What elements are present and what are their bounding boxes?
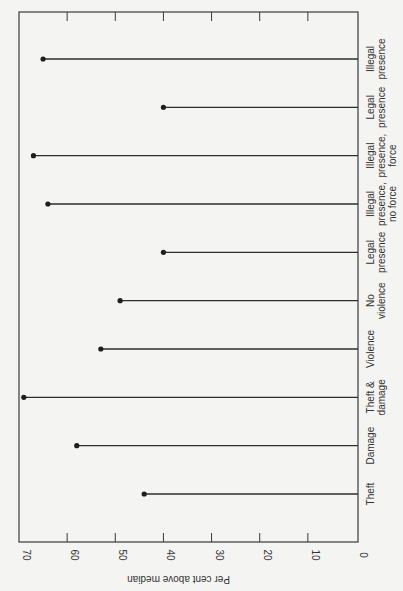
- tick-label: 70: [21, 549, 32, 561]
- lollipop-dot: [31, 153, 36, 158]
- category-label: Illegalpresence,force: [365, 134, 398, 178]
- category-label: Damage: [365, 426, 376, 464]
- plot-area: 010203040506070Per cent above medianThef…: [19, 12, 398, 585]
- lollipop-dot: [118, 298, 123, 303]
- plot-frame: [19, 12, 358, 542]
- category-label: Illegalpresence: [365, 38, 387, 80]
- tick-label: 20: [262, 549, 273, 561]
- lollipop-dot: [98, 346, 103, 351]
- tick-label: 50: [117, 549, 128, 561]
- tick-label: 40: [165, 549, 176, 561]
- lollipop-dot: [21, 395, 26, 400]
- tick-label: 10: [310, 549, 321, 561]
- category-label: Noviolence: [365, 282, 387, 319]
- lollipop-dot: [40, 56, 45, 61]
- category-label: Violence: [365, 329, 376, 368]
- category-label: Legalpresence: [365, 86, 387, 128]
- lollipop-dot: [45, 201, 50, 206]
- category-label: Theft &damage: [365, 379, 387, 416]
- chart: 010203040506070Per cent above medianThef…: [0, 0, 403, 591]
- lollipop-dot: [161, 250, 166, 255]
- lollipop-dot: [142, 491, 147, 496]
- category-label: Theft: [365, 482, 376, 505]
- tick-label: 30: [214, 549, 225, 561]
- tick-label: 60: [69, 549, 80, 561]
- axis-label: Per cent above median: [127, 574, 230, 585]
- category-label: Legalpresence: [365, 231, 387, 273]
- category-label: Illegalpresence,no force: [365, 182, 398, 226]
- lollipop-dot: [74, 443, 79, 448]
- lollipop-dot: [161, 105, 166, 110]
- tick-label: 0: [358, 552, 369, 558]
